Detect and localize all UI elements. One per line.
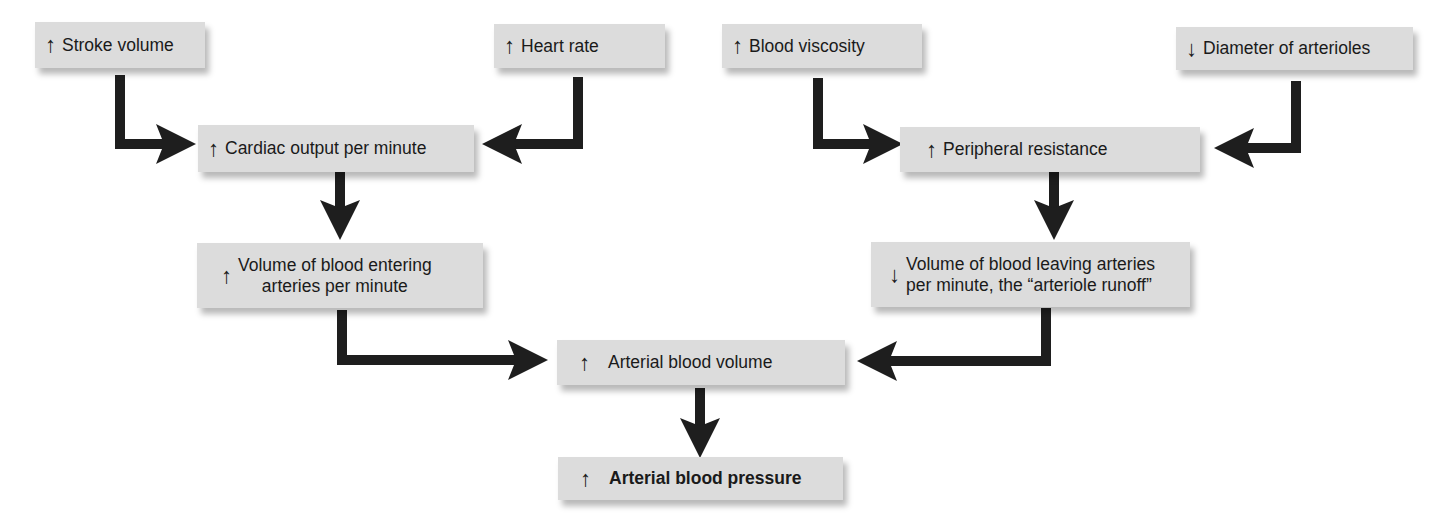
node-volume-entering: ↑ Volume of blood entering arteries per … <box>197 243 483 308</box>
node-label: Peripheral resistance <box>943 139 1107 160</box>
node-label: Stroke volume <box>62 35 174 56</box>
increase-arrow-icon: ↑ <box>580 468 591 490</box>
increase-arrow-icon: ↑ <box>504 35 515 57</box>
node-arterial-blood-pressure: ↑ Arterial blood pressure <box>558 457 843 500</box>
arrow-viscosity-to-peripheral <box>818 78 885 144</box>
arrow-leaving-to-abv <box>875 308 1046 361</box>
increase-arrow-icon: ↑ <box>732 35 743 57</box>
node-label: Heart rate <box>521 36 599 57</box>
node-blood-viscosity: ↑ Blood viscosity <box>722 24 922 68</box>
increase-arrow-icon: ↑ <box>221 265 232 287</box>
node-cardiac-output: ↑ Cardiac output per minute <box>198 125 474 172</box>
node-label-line1: Volume of blood entering <box>238 255 432 276</box>
arrow-entering-to-abv <box>342 310 530 360</box>
increase-arrow-icon: ↑ <box>45 34 56 56</box>
node-label: Cardiac output per minute <box>225 138 426 159</box>
arrow-diameter-to-peripheral <box>1232 81 1296 148</box>
node-label-line2: arteries per minute <box>262 276 408 297</box>
node-label: Arterial blood pressure <box>609 468 802 489</box>
node-diameter-arterioles: ↓ Diameter of arterioles <box>1176 27 1413 70</box>
node-label: Arterial blood volume <box>608 352 772 373</box>
decrease-arrow-icon: ↓ <box>889 264 900 286</box>
node-label-line2: per minute, the “arteriole runoff” <box>906 275 1152 296</box>
node-peripheral-resistance: ↑ Peripheral resistance <box>900 127 1200 172</box>
increase-arrow-icon: ↑ <box>579 352 590 374</box>
node-label: Blood viscosity <box>749 36 865 57</box>
arrow-stroke-to-cardiac <box>120 75 178 144</box>
node-stroke-volume: ↑ Stroke volume <box>35 22 205 68</box>
increase-arrow-icon: ↑ <box>208 138 219 160</box>
node-label-line1: Volume of blood leaving arteries <box>906 254 1155 275</box>
increase-arrow-icon: ↑ <box>926 139 937 161</box>
decrease-arrow-icon: ↓ <box>1186 38 1197 60</box>
node-heart-rate: ↑ Heart rate <box>494 24 665 68</box>
arrow-heart-to-cardiac <box>500 77 578 144</box>
node-arterial-blood-volume: ↑ Arterial blood volume <box>557 340 845 385</box>
node-label: Diameter of arterioles <box>1203 38 1370 59</box>
node-volume-leaving: ↓ Volume of blood leaving arteries per m… <box>871 242 1190 307</box>
